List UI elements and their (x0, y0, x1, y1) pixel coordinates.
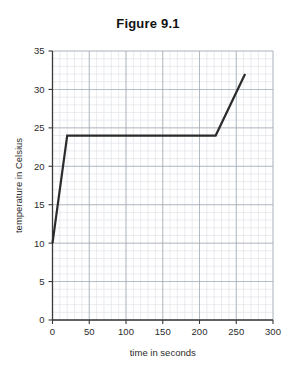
x-tick-label: 100 (118, 326, 134, 337)
x-tick-label: 150 (155, 326, 171, 337)
y-tick-label: 20 (34, 161, 45, 172)
y-tick-label: 30 (34, 84, 45, 95)
line-chart: 050100150200250300 05101520253035 time i… (0, 0, 296, 370)
y-tick-label: 15 (34, 199, 45, 210)
x-axis-tick-labels: 050100150200250300 (50, 326, 281, 337)
y-tick-label: 35 (34, 45, 45, 56)
x-tick-label: 200 (192, 326, 208, 337)
y-axis-tick-labels: 05101520253035 (34, 45, 45, 325)
x-axis-title: time in seconds (130, 347, 196, 358)
y-tick-label: 5 (39, 276, 44, 287)
y-tick-label: 0 (39, 314, 44, 325)
x-tick-label: 50 (84, 326, 95, 337)
x-tick-label: 250 (228, 326, 244, 337)
y-tick-label: 25 (34, 122, 45, 133)
x-tick-label: 300 (265, 326, 281, 337)
major-gridlines (53, 51, 274, 320)
y-axis-title: temperature in Celsius (13, 138, 24, 233)
y-tick-label: 10 (34, 238, 45, 249)
x-tick-label: 0 (50, 326, 55, 337)
figure-container: Figure 9.1 050100150200250300 0510152025… (0, 0, 296, 370)
